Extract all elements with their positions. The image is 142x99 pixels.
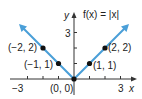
point-neg1-label: (−1, 1) — [24, 59, 53, 70]
point-2 — [102, 45, 107, 50]
point-neg2 — [40, 45, 45, 50]
abs-value-graph: y f(x) = |x| 3 −3 3 x (−2, 2) (−1, 1) (0… — [0, 0, 142, 99]
y-tick-3-label: 3 — [65, 28, 71, 39]
x-tick-neg3-label: −3 — [12, 83, 24, 94]
x-tick-3-label: 3 — [118, 83, 124, 94]
point-1-label: (1, 1) — [93, 60, 116, 71]
y-axis-arrow-icon — [72, 12, 77, 18]
x-axis-arrow-icon — [131, 77, 137, 82]
point-neg1 — [56, 61, 61, 66]
point-origin — [71, 76, 76, 81]
point-1 — [87, 61, 92, 66]
y-axis-label: y — [63, 10, 70, 21]
x-axis-label: x — [128, 83, 135, 94]
function-label: f(x) = |x| — [83, 9, 119, 20]
point-origin-label: (0, 0) — [50, 83, 73, 94]
point-2-label: (2, 2) — [108, 42, 131, 53]
point-neg2-label: (−2, 2) — [8, 42, 37, 53]
